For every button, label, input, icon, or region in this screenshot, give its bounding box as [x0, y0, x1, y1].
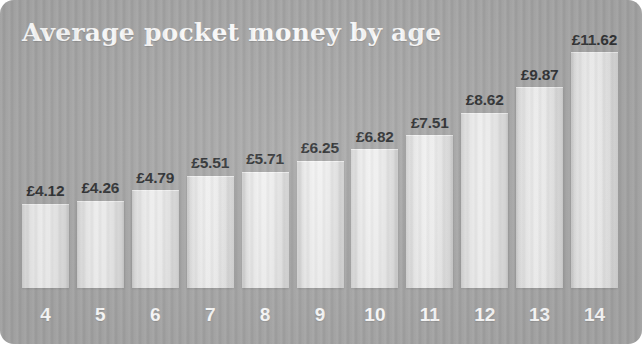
bar-rect[interactable] — [77, 201, 124, 288]
bar-value-label: £5.71 — [246, 151, 284, 167]
bar-group[interactable]: £4.12 — [22, 183, 69, 288]
bar-group[interactable]: £7.51 — [406, 115, 453, 288]
bar-value-label: £7.51 — [411, 115, 449, 131]
bar-rect[interactable] — [406, 135, 453, 288]
x-axis-tick-label: 11 — [402, 304, 457, 326]
x-axis-tick-label: 5 — [73, 304, 128, 326]
x-axis-tick-label: 6 — [128, 304, 183, 326]
bar-rect[interactable] — [461, 113, 508, 288]
bar-value-label: £4.79 — [136, 170, 174, 186]
bar-group[interactable]: £4.26 — [77, 180, 124, 288]
x-axis-tick-label: 8 — [238, 304, 293, 326]
bar-value-label: £4.12 — [27, 183, 65, 199]
x-axis-tick-label: 4 — [18, 304, 73, 326]
bar-chart-plot-area: £4.124£4.265£4.796£5.517£5.718£6.259£6.8… — [0, 0, 642, 344]
x-axis-tick-label: 9 — [293, 304, 348, 326]
x-axis-tick-label: 12 — [457, 304, 512, 326]
bar-value-label: £6.25 — [301, 140, 339, 156]
bar-value-label: £4.26 — [81, 180, 119, 196]
bar-rect[interactable] — [297, 161, 344, 288]
bar-group[interactable]: £5.51 — [187, 155, 234, 288]
bar-group[interactable]: £5.71 — [242, 151, 289, 288]
x-axis-tick-label: 7 — [183, 304, 238, 326]
bar-rect[interactable] — [571, 52, 618, 288]
x-axis-tick-label: 14 — [567, 304, 622, 326]
bar-group[interactable]: £4.79 — [132, 170, 179, 288]
bar-rect[interactable] — [187, 176, 234, 288]
x-axis-tick-label: 13 — [512, 304, 567, 326]
bar-group[interactable]: £11.62 — [571, 32, 618, 289]
bar-value-label: £6.82 — [356, 129, 394, 145]
bar-value-label: £5.51 — [191, 155, 229, 171]
bar-group[interactable]: £6.25 — [297, 140, 344, 288]
bar-value-label: £9.87 — [521, 67, 559, 83]
bar-rect[interactable] — [242, 172, 289, 288]
bar-rect[interactable] — [22, 204, 69, 288]
bar-group[interactable]: £6.82 — [351, 129, 398, 288]
chart-card: Average pocket money by age £4.124£4.265… — [0, 0, 642, 344]
bar-rect[interactable] — [516, 87, 563, 288]
chart-title: Average pocket money by age — [22, 18, 441, 47]
bar-value-label: £11.62 — [572, 32, 617, 48]
bar-group[interactable]: £8.62 — [461, 92, 508, 288]
bar-value-label: £8.62 — [466, 92, 504, 108]
bar-group[interactable]: £9.87 — [516, 67, 563, 288]
x-axis-tick-label: 10 — [347, 304, 402, 326]
bar-rect[interactable] — [132, 190, 179, 288]
bar-rect[interactable] — [351, 149, 398, 288]
